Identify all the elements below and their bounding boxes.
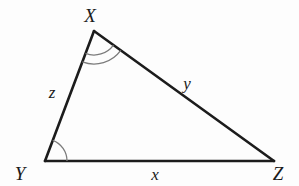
angle-arc-x-inner — [86, 45, 114, 55]
side-label-x: x — [150, 165, 159, 184]
vertex-label-y: Y — [15, 163, 28, 184]
side-label-z: z — [48, 83, 56, 102]
triangle-figure: X Y Z z y x — [0, 0, 299, 186]
vertex-label-x: X — [83, 5, 97, 26]
angle-arc-x-outer — [82, 50, 120, 64]
side-label-y: y — [181, 74, 191, 93]
vertex-label-z: Z — [273, 163, 284, 184]
triangle-side-xz — [94, 31, 274, 161]
geometry-diagram: X Y Z z y x — [0, 0, 299, 186]
angle-arc-y — [53, 140, 67, 161]
